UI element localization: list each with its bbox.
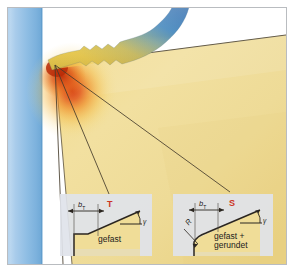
figure-root: bT T γ gefast bT S R γ gefast + gerundet <box>0 0 294 272</box>
main-scene-svg <box>8 8 286 264</box>
detail-inset-chamfered <box>60 194 152 256</box>
workpiece <box>8 8 43 264</box>
illustration-canvas: bT T γ gefast bT S R γ gefast + gerundet <box>8 8 286 264</box>
figure-frame: bT T γ gefast bT S R γ gefast + gerundet <box>7 7 287 265</box>
detail-inset-chamfered-rounded <box>173 194 273 256</box>
